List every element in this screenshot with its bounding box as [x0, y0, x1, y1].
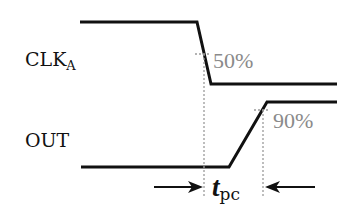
clk-label: CLKA: [25, 48, 76, 73]
clk-waveform: [80, 22, 337, 84]
delay-label: tpc: [212, 172, 240, 204]
left-arrow-icon: [265, 181, 315, 193]
out-label: OUT: [25, 129, 70, 151]
out-threshold-label: 90%: [273, 108, 313, 133]
clk-threshold-label: 50%: [213, 48, 253, 73]
right-arrow-icon: [154, 181, 203, 193]
timing-diagram: CLKA OUT 50% 90% tpc: [0, 0, 361, 220]
